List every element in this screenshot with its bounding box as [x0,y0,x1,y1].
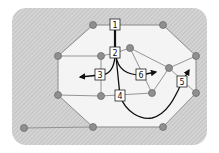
label-1: 1 [110,19,120,30]
node [149,90,156,97]
node [166,65,173,72]
node [160,22,167,29]
label-3: 3 [95,69,105,80]
label-6: 6 [136,69,146,80]
label-2: 2 [110,47,120,58]
node [127,45,134,52]
node [55,53,62,60]
svg-text:1: 1 [112,21,117,30]
path-diagram: 1 2 3 4 5 6 [0,0,219,153]
node [98,53,105,60]
node [90,124,97,131]
node [55,92,62,99]
svg-text:4: 4 [117,92,122,101]
label-4: 4 [115,90,125,101]
svg-text:3: 3 [97,71,102,80]
node [90,22,97,29]
node [21,125,28,132]
label-5: 5 [177,76,187,87]
svg-text:2: 2 [112,49,117,58]
svg-text:6: 6 [138,71,143,80]
node [160,124,167,131]
free-space-region [58,25,196,127]
node [193,53,200,60]
svg-text:5: 5 [179,78,184,87]
node [98,93,105,100]
node [193,90,200,97]
